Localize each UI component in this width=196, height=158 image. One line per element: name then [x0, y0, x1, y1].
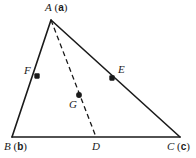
side-AB	[12, 20, 51, 137]
vertex-label-B-paren-close: )	[23, 140, 27, 152]
vertex-label-C-paren-close: )	[186, 140, 190, 152]
figure-canvas	[0, 0, 196, 158]
point-label-F-italic: F	[24, 64, 31, 76]
vertex-label-B-italic: B	[4, 140, 11, 152]
point-marker-E	[109, 75, 114, 80]
geometry-figure: A (a) B (b) C (c) D E F G	[0, 0, 196, 158]
point-marker-F	[34, 73, 39, 78]
cevian-group	[51, 20, 96, 137]
vertex-label-B: B (b)	[4, 141, 27, 152]
point-label-G-italic: G	[69, 98, 77, 110]
side-AC	[51, 20, 180, 137]
cevian-AD	[51, 20, 96, 137]
vertex-label-C: C (c)	[167, 141, 190, 152]
point-label-F: F	[24, 65, 31, 76]
vertex-label-A-paren-close: )	[64, 1, 68, 13]
point-label-E-italic: E	[118, 63, 125, 75]
point-label-D: D	[92, 141, 100, 152]
vertex-label-A-italic: A	[45, 1, 52, 13]
point-label-E: E	[118, 64, 125, 75]
point-markers	[34, 73, 114, 98]
point-label-G: G	[69, 99, 77, 110]
point-label-D-italic: D	[92, 140, 100, 152]
vertex-label-A: A (a)	[45, 2, 67, 13]
